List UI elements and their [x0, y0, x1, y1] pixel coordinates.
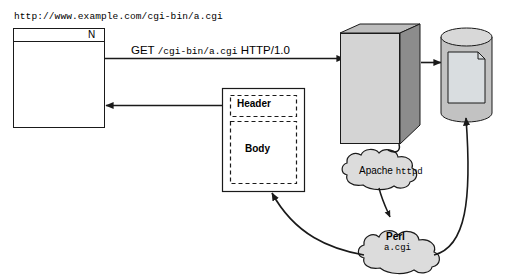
perl-to-response-arrow [272, 193, 364, 255]
response-header-label: Header [237, 98, 271, 109]
request-protocol: HTTP/1.0 [241, 44, 290, 56]
cylinder-top [441, 28, 492, 46]
response-body-label: Body [245, 143, 270, 154]
data-store-cylinder[interactable] [441, 28, 492, 122]
browser-url-label: http://www.example.com/cgi-bin/a.cgi [14, 11, 223, 22]
server-front-face [341, 34, 400, 144]
server-side-face [400, 24, 420, 144]
file-document-icon [448, 52, 485, 103]
web-browser-window[interactable] [14, 29, 105, 128]
perl-interpreter-label: Perl [386, 231, 405, 242]
web-server-machine[interactable] [340, 24, 420, 144]
request-path: /cgi-bin/a.cgi [158, 46, 238, 57]
perl-to-database-arrow [434, 118, 468, 255]
browser-logo-n: N [88, 29, 95, 40]
http-request-label: GET /cgi-bin/a.cgi HTTP/1.0 [131, 44, 290, 57]
browser-frame [14, 29, 105, 128]
diagram-svg [0, 0, 506, 280]
perl-script-label: a.cgi [384, 243, 411, 253]
apache-to-perl-arrow [379, 188, 390, 217]
apache-label: Apache httpd [359, 165, 423, 177]
apache-program-name: Apache [359, 165, 393, 176]
apache-daemon-name: httpd [396, 167, 423, 177]
diagram-canvas: http://www.example.com/cgi-bin/a.cgi N G… [0, 0, 506, 280]
request-method: GET [131, 44, 154, 56]
